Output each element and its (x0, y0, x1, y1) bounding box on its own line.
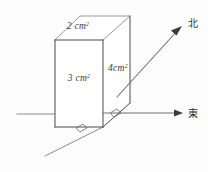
front-face-label-exponent: 2 (87, 73, 90, 79)
ground-line-diagonal (45, 127, 103, 156)
top-face-label-unit: cm (74, 21, 86, 31)
front-face-label-unit: cm (75, 73, 87, 83)
right-face-label-unit: cm (113, 63, 125, 73)
front-face-label: 3 cm2 (67, 73, 91, 83)
east-arrow-head (174, 110, 183, 117)
north-direction-label: 北 (188, 18, 198, 29)
east-direction-label: 東 (188, 107, 198, 119)
north-arrow-head (171, 26, 182, 36)
top-face-label-exponent: 2 (86, 21, 89, 27)
figure-container: 2 cm2 3 cm2 4cm2 北 東 (0, 0, 208, 172)
prism-front-face (55, 40, 103, 127)
prism-diagram: 2 cm2 3 cm2 4cm2 北 東 (0, 0, 208, 172)
right-face-label-exponent: 2 (125, 63, 128, 69)
top-face-label: 2 cm2 (67, 21, 90, 31)
